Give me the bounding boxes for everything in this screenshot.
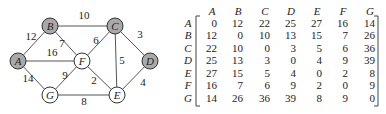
matrix-cell: 22: [206, 42, 217, 54]
matrix-cell: 26: [232, 92, 244, 104]
matrix-cell: 5: [317, 42, 323, 54]
node-label: A: [14, 55, 22, 67]
matrix-cell: 16: [206, 79, 218, 91]
matrix-cell: 0: [238, 29, 244, 41]
edge-weight-label: 5: [119, 54, 125, 66]
edge-weight-label: 6: [93, 34, 99, 46]
matrix-cell: 5: [265, 67, 271, 79]
edge-weight-label: 7: [59, 37, 65, 49]
matrix-cell: 16: [337, 17, 349, 29]
edge-weight-label: 4: [140, 76, 146, 88]
matrix-cell: 2: [317, 79, 323, 91]
matrix-cell: 26: [364, 29, 376, 41]
matrix-cell: 39: [364, 54, 376, 66]
matrix-row-header: G: [184, 92, 192, 104]
matrix-col-header: E: [313, 5, 321, 17]
node-label: C: [111, 20, 119, 32]
matrix-cell: 14: [364, 17, 376, 29]
matrix-cell: 6: [343, 42, 349, 54]
matrix-cell: 0: [212, 17, 218, 29]
matrix-left-bracket: [196, 16, 200, 106]
matrix-cell: 9: [343, 54, 349, 66]
matrix-col-header: D: [286, 5, 295, 17]
matrix-cell: 15: [232, 67, 244, 79]
matrix-cell: 7: [238, 79, 244, 91]
edge-c-e: [115, 26, 117, 95]
node-label: F: [78, 55, 86, 67]
matrix-cell: 4: [317, 54, 323, 66]
matrix-row-header: D: [183, 54, 192, 66]
matrix-col-header: C: [261, 5, 269, 17]
matrix-row-header: C: [184, 42, 192, 54]
matrix-cell: 25: [206, 54, 218, 66]
matrix-cell: 0: [370, 92, 376, 104]
matrix-cell: 8: [370, 67, 376, 79]
node-b: B: [42, 18, 58, 34]
matrix-cell: 27: [311, 17, 323, 29]
matrix-cell: 7: [343, 29, 349, 41]
matrix-cell: 9: [343, 92, 349, 104]
matrix-cell: 6: [265, 79, 271, 91]
matrix-cell: 22: [259, 17, 270, 29]
edge-weight-label: 14: [23, 72, 35, 84]
matrix-col-header: A: [208, 5, 216, 17]
matrix-row-header: A: [184, 17, 192, 29]
matrix-cell: 9: [291, 79, 297, 91]
matrix-cell: 36: [364, 42, 376, 54]
matrix-cell: 25: [285, 17, 297, 29]
edge-weight-label: 8: [81, 95, 87, 107]
node-d: D: [142, 53, 158, 69]
node-g: G: [42, 87, 58, 103]
matrix-col-header: B: [235, 5, 242, 17]
edge-weight-label: 3: [137, 28, 143, 40]
node-label: E: [113, 89, 121, 101]
matrix-col-header: F: [339, 5, 347, 17]
matrix-cell: 12: [206, 29, 217, 41]
distance-matrix: ABCDEFGABCDEFG01222252716141201013157262…: [183, 5, 378, 106]
edge-weight-label: 16: [47, 46, 59, 58]
edge-weight-label: 12: [26, 30, 37, 42]
matrix-cell: 13: [232, 54, 244, 66]
node-f: F: [74, 53, 90, 69]
matrix-cell: 39: [285, 92, 297, 104]
matrix-row-header: F: [184, 79, 192, 91]
matrix-cell: 0: [291, 54, 297, 66]
node-label: D: [145, 55, 154, 67]
matrix-cell: 9: [370, 79, 376, 91]
matrix-cell: 14: [206, 92, 218, 104]
edge-weight-label: 10: [79, 9, 91, 21]
matrix-cell: 12: [232, 17, 243, 29]
matrix-cell: 2: [343, 67, 349, 79]
matrix-cell: 10: [232, 42, 244, 54]
matrix-cell: 27: [206, 67, 218, 79]
edge-weight-label: 9: [62, 69, 68, 81]
matrix-cell: 0: [265, 42, 271, 54]
diagram-canvas: 1210716146359284 ABCDEFG ABCDEFGABCDEFG0…: [0, 0, 386, 114]
matrix-row-header: B: [185, 29, 192, 41]
node-e: E: [109, 87, 125, 103]
matrix-cell: 0: [343, 79, 349, 91]
edge-weight-label: 2: [91, 74, 97, 86]
matrix-cell: 13: [285, 29, 297, 41]
matrix-col-header: G: [366, 5, 374, 17]
node-c: C: [107, 18, 123, 34]
node-a: A: [10, 53, 26, 69]
matrix-cell: 15: [311, 29, 323, 41]
matrix-cell: 0: [317, 67, 323, 79]
matrix-cell: 10: [259, 29, 271, 41]
matrix-cell: 3: [265, 54, 271, 66]
matrix-cell: 36: [259, 92, 271, 104]
node-label: G: [46, 89, 54, 101]
matrix-cell: 4: [291, 67, 297, 79]
matrix-cell: 3: [291, 42, 297, 54]
matrix-row-header: E: [184, 67, 192, 79]
node-label: B: [47, 20, 54, 32]
matrix-cell: 8: [317, 92, 323, 104]
